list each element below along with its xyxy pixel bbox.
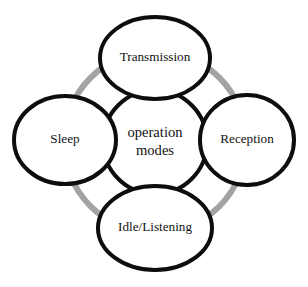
node-label-idle-listening: Idle/Listening [118, 219, 192, 234]
operation-modes-diagram: operation modes Transmission Reception I… [0, 0, 308, 287]
node-label-sleep: Sleep [50, 131, 80, 146]
node-label-transmission: Transmission [120, 49, 191, 64]
node-label-reception: Reception [220, 131, 274, 146]
center-node-label-line1: operation [127, 124, 183, 140]
diagram-canvas: operation modes Transmission Reception I… [0, 0, 308, 287]
center-node-label-line2: modes [136, 142, 174, 158]
